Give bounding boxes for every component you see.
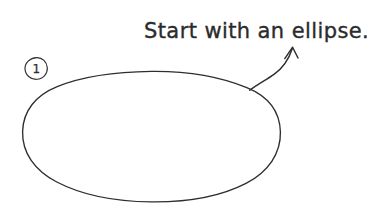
- caption-text: Start with an ellipse.: [144, 19, 369, 43]
- step-marker: 1: [25, 58, 47, 80]
- arrow-curve-line: [250, 48, 293, 90]
- caption-group: Start with an ellipse.: [144, 19, 369, 43]
- step-marker-number: 1: [32, 62, 40, 76]
- ellipse-shape: [23, 71, 281, 202]
- pointer-arrow: [250, 47, 298, 90]
- sketch-svg: 1 Start with an ellipse.: [0, 0, 370, 214]
- ellipse-outline: [23, 71, 281, 202]
- sketch-canvas: 1 Start with an ellipse.: [0, 0, 370, 214]
